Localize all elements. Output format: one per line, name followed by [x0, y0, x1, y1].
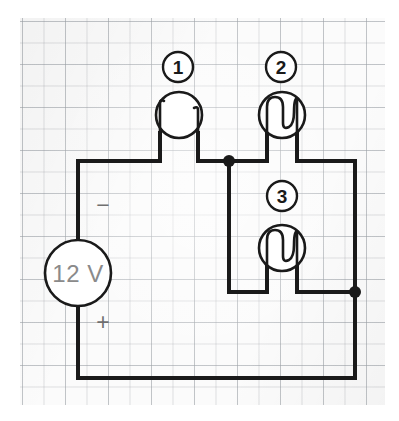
circuit-diagram-canvas: 12 V − + 1 2 [0, 0, 399, 421]
junction-left-dot [223, 155, 235, 167]
lamp-3-tag-label: 3 [277, 186, 288, 207]
lamp-3-tag: 3 [267, 181, 297, 211]
junction-right-dot [349, 286, 361, 298]
wire-lamp3-branch-left [229, 161, 267, 292]
wire-top-left-segment [78, 133, 160, 161]
wire-lamp2-right-to-corner [297, 133, 355, 161]
voltage-source-value: 12 V [52, 260, 103, 287]
lamp-1-glass [156, 92, 202, 138]
lamp-1-tag: 1 [163, 52, 193, 82]
lamp-2-tag-label: 2 [276, 57, 287, 78]
wire-junction-to-lamp2 [229, 133, 267, 161]
lamp-1[interactable] [156, 92, 202, 138]
plus-terminal-label: + [96, 309, 109, 335]
lamp-2[interactable] [259, 92, 305, 138]
circuit-schematic: 12 V − + 1 2 [0, 0, 399, 421]
lamp-3[interactable] [259, 225, 305, 271]
lamp-2-tag: 2 [266, 52, 296, 82]
minus-terminal-label: − [96, 192, 109, 218]
wire-lamp1-right-to-junction [198, 133, 229, 161]
wiring [78, 133, 355, 378]
wire-lamp3-branch-right [297, 266, 355, 292]
lamp-1-tag-label: 1 [173, 57, 184, 78]
